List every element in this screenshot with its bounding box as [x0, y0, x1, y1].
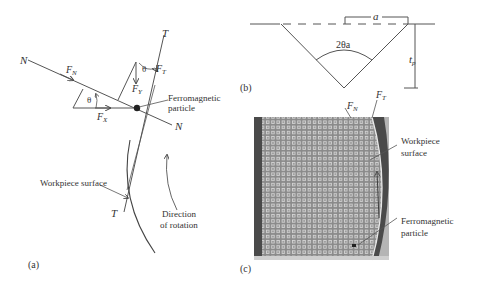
workpiece-surface-label-c-line1: Workpiece: [401, 137, 440, 146]
normal-axis-label-end: N: [175, 121, 182, 132]
x-force-label: FX: [97, 112, 107, 124]
ferromagnetic-label-a-line1: Ferromagnetic: [168, 94, 220, 103]
normal-force-label: FN: [66, 65, 77, 77]
tangential-force-label: FT: [156, 64, 166, 76]
width-dimension-label: a: [373, 11, 379, 22]
rotation-direction-label-line1: Direction: [162, 210, 196, 219]
panel-b-caption: (b): [240, 83, 252, 93]
tangent-axis-label-end: T: [111, 208, 117, 219]
panel-c-caption: (c): [240, 264, 251, 274]
workpiece-surface-label-a: Workpiece surface: [40, 179, 107, 188]
workpiece-surface-label-c-line2: surface: [401, 149, 427, 158]
normal-force-label-c: FN: [347, 101, 358, 113]
ferromagnetic-label-a-line2: particle: [168, 104, 195, 113]
ferromagnetic-label-c-line1: Ferromagnetic: [401, 217, 453, 226]
cone-angle-label: 2θa: [336, 40, 350, 50]
depth-dimension-label: tp: [409, 54, 416, 67]
tangent-axis-label-start: T: [162, 28, 168, 39]
normal-axis-label-start: N: [20, 55, 27, 66]
tangential-force-label-c: FT: [376, 90, 386, 102]
theta-angle-top: θ: [142, 65, 146, 74]
ferromagnetic-label-c-line2: particle: [401, 229, 428, 238]
panel-a-caption: (a): [28, 260, 39, 270]
y-force-label: FY: [132, 84, 142, 96]
rotation-direction-label-line2: of rotation: [160, 221, 198, 230]
theta-angle-left: θ: [87, 96, 91, 105]
